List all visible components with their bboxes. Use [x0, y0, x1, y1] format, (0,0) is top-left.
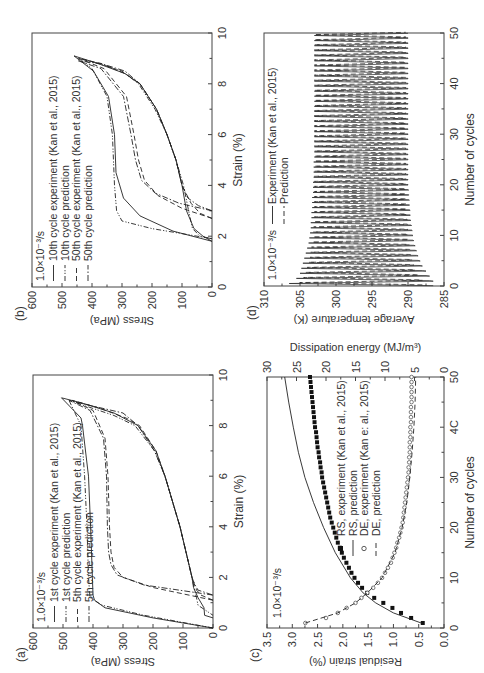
- de-experiment-marker: [409, 430, 413, 434]
- legend-marker-square: [338, 546, 343, 551]
- x-tick-label: 10: [448, 572, 460, 584]
- y-axis-label: Average temperature (K): [294, 314, 415, 326]
- y-tick-label: 500: [56, 291, 68, 309]
- y2-tick-label: 20: [320, 361, 332, 373]
- x-tick-label: 2: [217, 574, 229, 580]
- rs-experiment-marker: [328, 516, 332, 520]
- y2-tick-label: 5: [409, 367, 421, 373]
- legend-label: Experiment (Kan et al., 2015): [266, 67, 278, 204]
- rs-experiment-marker: [319, 465, 323, 469]
- legend-label: 1st cycle experiment (Kan et al., 2015): [48, 423, 60, 602]
- rs-experiment-marker: [317, 450, 321, 454]
- y-tick-label: 600: [26, 291, 38, 309]
- y-tick-label: 0.0: [438, 632, 450, 647]
- de-experiment-marker: [410, 390, 414, 394]
- rs-experiment-marker: [312, 415, 316, 419]
- rs-experiment-marker: [324, 495, 328, 499]
- de-experiment-marker: [404, 496, 408, 500]
- de-experiment-marker: [408, 445, 412, 449]
- y-tick-label: 300: [330, 290, 342, 308]
- y-tick-label: 2.5: [312, 632, 324, 647]
- rs-experiment-marker: [340, 551, 344, 555]
- de-experiment-marker: [410, 380, 414, 384]
- y-tick-label: 0.5: [413, 632, 425, 647]
- rs-experiment-marker: [356, 581, 360, 585]
- rs-experiment-marker: [315, 435, 319, 439]
- legend-label: DE, experiment (Kan e: al., 2015): [358, 380, 370, 536]
- legend-label: 50th cycle prediction: [82, 165, 94, 261]
- rs-experiment-marker: [421, 621, 425, 625]
- x-tick-label: 0: [448, 625, 460, 631]
- x-tick-label: 2: [216, 233, 228, 239]
- y-tick-label: 100: [177, 632, 189, 650]
- de-experiment-marker: [409, 410, 413, 414]
- legend-label: 1st cycle prediction: [60, 513, 72, 602]
- legend-marker-circle: [362, 546, 366, 550]
- x-tick-label: 30: [448, 471, 460, 483]
- de-experiment-marker: [410, 400, 414, 404]
- y-tick-label: 0: [206, 291, 218, 297]
- y-axis-label: Residual strain (%): [309, 656, 402, 668]
- panel-label: (b): [13, 306, 27, 321]
- rs-experiment-marker: [309, 385, 313, 389]
- rs-experiment-marker: [352, 576, 356, 580]
- y2-tick-label: 30: [261, 361, 273, 373]
- rs-experiment-marker: [314, 430, 318, 434]
- de-experiment-marker: [408, 440, 412, 444]
- y-tick-label: 300: [117, 632, 129, 650]
- y2-tick-label: 0: [438, 367, 450, 373]
- panel-label: (c): [248, 648, 262, 662]
- de-experiment-marker: [408, 451, 412, 455]
- y-tick-label: 100: [176, 291, 188, 309]
- y-tick-label: 285: [438, 290, 450, 308]
- panel-b-stress-strain: 0246810Strain (%)0100200300400500600Stre…: [0, 0, 242, 333]
- x-tick-label: 8: [217, 423, 229, 429]
- panel-a-stress-strain: 0246810Strain (%)0100200300400500600Stre…: [0, 333, 242, 673]
- rs-experiment-marker: [325, 501, 329, 505]
- y2-tick-label: 15: [350, 361, 362, 373]
- rs-experiment-marker: [316, 445, 320, 449]
- y2-axis-label: Dissipation energy (MJ/m³): [290, 341, 421, 353]
- y-tick-label: 400: [87, 632, 99, 650]
- y-tick-label: 200: [147, 632, 159, 650]
- y2-tick-label: 25: [291, 361, 303, 373]
- y-tick-label: 1.5: [362, 632, 374, 647]
- legend-label: Prediction: [278, 157, 290, 204]
- rs-experiment-marker: [399, 611, 403, 615]
- y-tick-label: 3.5: [261, 632, 273, 647]
- y-tick-label: 295: [366, 290, 378, 308]
- chart-svg: 01020304050Number of cycles2852902953003…: [242, 0, 484, 333]
- y-tick-label: 0: [207, 632, 219, 638]
- x-tick-label: 20: [448, 179, 460, 191]
- x-axis-label: Number of cycles: [463, 113, 477, 206]
- legend-label: 50th cycle experiment (Kan et al., 2015): [70, 75, 82, 261]
- rs-experiment-marker: [347, 566, 351, 570]
- de-experiment-marker: [407, 456, 411, 460]
- de-experiment-marker: [410, 385, 414, 389]
- panel-d-temperature: 01020304050Number of cycles2852902953003…: [242, 0, 484, 333]
- de-experiment-marker: [409, 405, 413, 409]
- rs-experiment-marker: [327, 511, 331, 515]
- chart-svg: 01020304C50Number of cycles0.00.51.01.52…: [242, 333, 484, 673]
- y-tick-label: 310: [258, 290, 270, 308]
- plot-area: 0246810Strain (%)0100200300400500600Stre…: [14, 369, 246, 668]
- x-tick-label: 6: [217, 473, 229, 479]
- x-tick-label: 4: [216, 182, 228, 188]
- y-tick-label: 3.0: [286, 632, 298, 647]
- legend-label: 5th cycle prediction: [83, 512, 95, 602]
- rs-experiment-marker: [349, 571, 353, 575]
- rs-experiment-marker: [308, 375, 312, 379]
- rs-experiment-marker: [372, 596, 376, 600]
- de-experiment-marker: [407, 466, 411, 470]
- rate-annotation: 1.0×10⁻³/s: [271, 568, 283, 618]
- y2-tick-label: 10: [379, 361, 391, 373]
- rs-experiment-marker: [323, 490, 327, 494]
- x-tick-label: 0: [216, 284, 228, 290]
- rs-experiment-marker: [326, 506, 330, 510]
- rs-experiment-marker: [390, 606, 394, 610]
- rs-experiment-marker: [313, 420, 317, 424]
- rs-experiment-marker: [320, 475, 324, 479]
- x-tick-label: 6: [216, 132, 228, 138]
- chart-svg: 0246810Strain (%)0100200300400500600Stre…: [0, 0, 242, 333]
- rs-experiment-marker: [336, 541, 340, 545]
